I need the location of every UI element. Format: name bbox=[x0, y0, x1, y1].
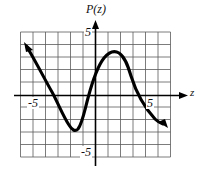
y-axis-label: P(z) bbox=[86, 2, 106, 17]
x-tick-label-negative-5: -5 bbox=[27, 97, 39, 109]
function-graph-figure: P(z) z 5 -5 -5 5 bbox=[0, 0, 209, 172]
y-tick-label-negative-5: -5 bbox=[80, 146, 92, 158]
x-axis-label: z bbox=[190, 86, 194, 98]
x-axis bbox=[14, 92, 188, 99]
curve-arrow-left bbox=[24, 42, 33, 52]
y-tick-label-positive-5: 5 bbox=[84, 26, 92, 38]
x-tick-label-positive-5: 5 bbox=[146, 97, 154, 109]
plot-canvas bbox=[0, 0, 209, 172]
